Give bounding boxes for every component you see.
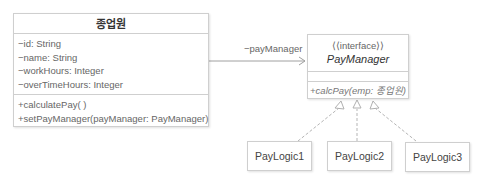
attribute-workhours: −workHours: Integer [18, 64, 204, 78]
paylogic1-class-box[interactable]: PayLogic1 [247, 141, 312, 171]
realization-line-3 [375, 108, 416, 141]
realization-line-1 [298, 108, 339, 141]
employee-class-attributes: −id: String −name: String −workHours: In… [14, 34, 208, 95]
employee-class-operations: +calculatePay( ) +setPayManager(payManag… [14, 95, 208, 128]
employee-class-box[interactable]: 종업원 −id: String −name: String −workHours… [13, 13, 209, 127]
operation-setpaymanager: +setPayManager(payManager: PayManager) [18, 112, 204, 126]
attribute-name: −name: String [18, 51, 204, 65]
realization-arrow-icon [370, 101, 379, 109]
paylogic3-class-box[interactable]: PayLogic3 [405, 142, 470, 172]
association-label: −payManager [244, 43, 302, 54]
interface-name: PayManager [308, 52, 408, 66]
interface-header: ⟨⟨interface⟩⟩ PayManager [308, 35, 408, 72]
realization-arrow-icon [335, 101, 344, 109]
attribute-overtimehours: −overTimeHours: Integer [18, 78, 204, 92]
interface-attributes [308, 72, 408, 82]
interface-operation-calcpay: +calcPay(emp: 종업원) [308, 82, 408, 100]
paylogic2-class-box[interactable]: PayLogic2 [327, 141, 392, 171]
interface-stereotype: ⟨⟨interface⟩⟩ [308, 39, 408, 52]
employee-class-name: 종업원 [14, 14, 208, 34]
attribute-id: −id: String [18, 37, 204, 51]
realization-arrow-icon [353, 100, 361, 108]
paymanager-interface-box[interactable]: ⟨⟨interface⟩⟩ PayManager +calcPay(emp: 종… [307, 34, 409, 99]
operation-calculatepay: +calculatePay( ) [18, 98, 204, 112]
